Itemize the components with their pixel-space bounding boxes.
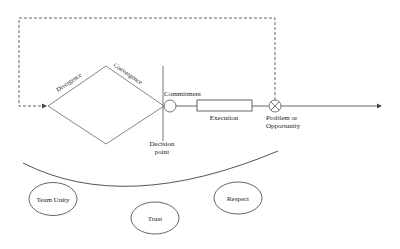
- decision-label-line1: Decision: [150, 140, 175, 148]
- foundation-arc: [23, 151, 278, 186]
- problem-label-line2: Opportunity: [266, 122, 301, 130]
- problem-label-line1: Problem or: [266, 114, 298, 122]
- value-respect: Respect: [214, 182, 262, 214]
- value-trust: Trust: [131, 202, 179, 234]
- execution-box: [197, 100, 252, 111]
- value-label: Trust: [148, 215, 163, 223]
- value-team-unity: Team Unity: [29, 183, 77, 216]
- decision-label-line2: point: [155, 148, 169, 156]
- commitment-label: Commitment: [164, 90, 201, 98]
- commitment-node-icon: [164, 100, 176, 112]
- divergence-label: Divergence: [55, 71, 83, 93]
- value-label: Respect: [227, 195, 249, 203]
- value-label: Team Unity: [36, 196, 70, 204]
- problem-opportunity-x-circle-icon: [269, 100, 281, 112]
- divergence-convergence-diamond: [48, 66, 164, 144]
- decision-process-diagram: Divergence Convergence Commitment Execut…: [0, 0, 400, 249]
- execution-label: Execution: [210, 114, 239, 122]
